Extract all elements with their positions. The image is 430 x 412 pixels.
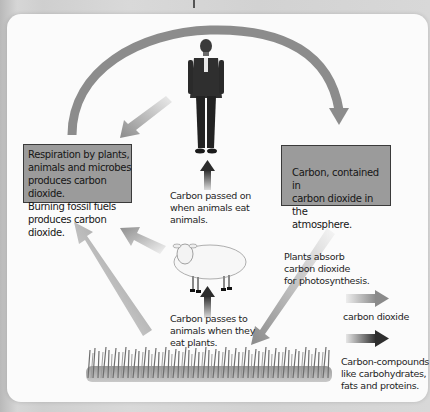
atmosphere-box: Carbon, contained in carbon dioxide in t… [281, 145, 391, 206]
legend-compounds-label: Carbon-compounds like carbohydrates, fat… [341, 356, 429, 392]
human-to-respiration-arrow [120, 96, 172, 138]
sheep-to-human-arrow [200, 160, 215, 190]
respiration-line: animals and microbes [28, 161, 131, 174]
respiration-line: Respiration by plants, [28, 148, 131, 161]
atmosphere-line: carbon dioxide in the [292, 192, 390, 218]
legend-compounds-arrow [346, 330, 389, 347]
respiration-line: produces carbon dioxide. [28, 213, 131, 239]
respiration-line: produces carbon dioxide. [28, 174, 131, 200]
respiration-box: Respiration by plants, animals and micro… [23, 144, 132, 203]
label-photosynthesis: Plants absorb carbon dioxide for photosy… [284, 251, 370, 287]
label-animals-eat-plants: Carbon passes to animals when they eat p… [170, 313, 255, 349]
respiration-line: Burning fossil fuels [28, 200, 131, 213]
sheep-icon [173, 244, 246, 293]
atmosphere-line: atmosphere. [292, 218, 390, 231]
legend-co2-label: carbon dioxide [343, 311, 409, 323]
legend-co2-arrow [346, 290, 389, 307]
human-icon [188, 39, 224, 154]
atmosphere-line: Carbon, contained in [292, 166, 390, 192]
label-animals-eat-animals: Carbon passed on when animals eat animal… [170, 190, 251, 226]
grass-icon [86, 347, 332, 382]
